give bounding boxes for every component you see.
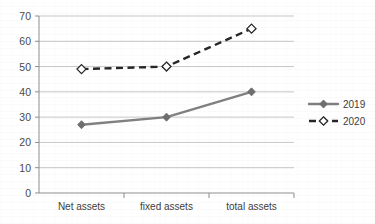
series-2019 [78,88,256,129]
series-2019-marker-0 [78,121,86,129]
legend-label-2019: 2019 [343,99,366,110]
legend-item-2020[interactable]: 2020 [309,116,366,127]
y-tick-label-70: 70 [19,10,31,22]
x-category-label-0: Net assets [58,201,105,212]
line-chart: 70 60 50 40 30 20 10 0 Net assets fixed … [0,0,375,224]
series-2020-marker-1 [162,62,171,71]
chart-legend: 2019 2020 [309,99,366,127]
y-tick-label-50: 50 [19,61,31,73]
y-tick-label-0: 0 [25,187,31,199]
y-tick-label-20: 20 [19,136,31,148]
y-tick-label-60: 60 [19,35,31,47]
legend-marker-2019 [320,100,328,108]
y-tick-label-10: 10 [19,162,31,174]
y-tick-label-30: 30 [19,111,31,123]
series-2020-marker-0 [77,65,86,74]
y-tick-label-40: 40 [19,86,31,98]
chart-canvas: 70 60 50 40 30 20 10 0 Net assets fixed … [0,0,375,224]
x-category-label-1: fixed assets [140,201,193,212]
legend-item-2019[interactable]: 2019 [309,99,366,110]
series-2019-marker-2 [248,88,256,96]
x-axis-ticks [124,193,294,198]
legend-label-2020: 2020 [343,116,366,127]
y-axis-tick-labels: 70 60 50 40 30 20 10 0 [19,10,31,199]
series-2020-marker-2 [247,24,256,33]
x-axis-category-labels: Net assets fixed assets total assets [58,201,277,212]
series-2019-marker-1 [163,113,171,121]
legend-marker-2020 [319,117,327,125]
y-axis-ticks [35,16,39,193]
x-category-label-2: total assets [226,201,277,212]
